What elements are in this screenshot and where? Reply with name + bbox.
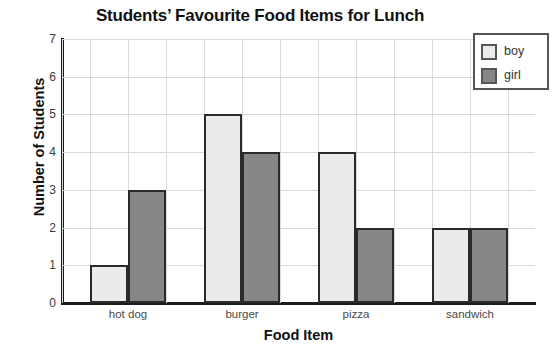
- grid-line-horizontal: [62, 152, 535, 153]
- legend-label-boy: boy: [504, 45, 524, 58]
- y-tick-label-1: 1: [30, 258, 56, 272]
- chart-title: Students’ Favourite Food Items for Lunch: [60, 6, 460, 26]
- grid-line-vertical: [166, 39, 167, 303]
- plot-area: [62, 39, 535, 303]
- grid-line-vertical: [394, 39, 395, 303]
- bar-burger-girl: [242, 152, 280, 303]
- x-tick-label-hot-dog: hot dog: [90, 308, 166, 320]
- chart-legend: boy girl: [473, 33, 549, 90]
- bar-hot-dog-boy: [90, 265, 128, 303]
- bar-pizza-boy: [318, 152, 356, 303]
- bar-sandwich-girl: [470, 228, 508, 303]
- grid-line-horizontal: [62, 114, 535, 115]
- legend-item-girl[interactable]: girl: [481, 65, 541, 86]
- y-tick-label-0: 0: [30, 296, 56, 310]
- grid-line-horizontal: [62, 39, 535, 40]
- legend-label-girl: girl: [504, 69, 521, 82]
- y-tick-label-7: 7: [30, 32, 56, 46]
- legend-swatch-girl-icon: [481, 68, 497, 84]
- bar-pizza-girl: [356, 228, 394, 303]
- bar-hot-dog-girl: [128, 190, 166, 303]
- bar-sandwich-boy: [432, 228, 470, 303]
- grid-line-vertical: [280, 39, 281, 303]
- x-tick-label-burger: burger: [204, 308, 280, 320]
- x-tick-label-pizza: pizza: [318, 308, 394, 320]
- x-axis-title: Food Item: [62, 327, 535, 343]
- grid-line-horizontal: [62, 77, 535, 78]
- bar-burger-boy: [204, 114, 242, 303]
- y-axis-title: Number of Students: [31, 47, 47, 247]
- grid-line-vertical: [62, 39, 63, 303]
- legend-item-boy[interactable]: boy: [481, 41, 541, 62]
- x-tick-label-sandwich: sandwich: [432, 308, 508, 320]
- legend-swatch-boy-icon: [481, 44, 497, 60]
- grid-line-vertical: [90, 39, 91, 303]
- bar-chart: Students’ Favourite Food Items for Lunch…: [0, 0, 559, 355]
